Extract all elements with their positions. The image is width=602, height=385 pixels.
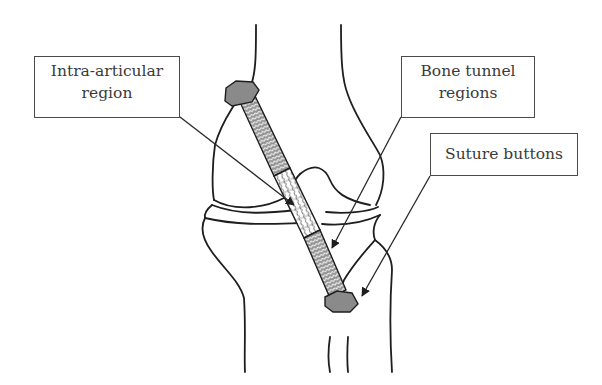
tibia-lower-line-1	[329, 337, 331, 372]
fibula-outline	[375, 240, 392, 372]
femur-right-outline	[341, 25, 383, 205]
label-tunnel-line1: Bone tunnel	[402, 60, 534, 82]
label-intra-line2: region	[35, 82, 179, 104]
femoral-condyle-lateral	[214, 198, 284, 207]
suture-button-tibial	[325, 291, 358, 312]
ligament-graft	[239, 94, 346, 298]
label-intra-line1: Intra-articular	[35, 60, 179, 82]
label-tunnel-line2: regions	[402, 82, 534, 104]
meniscus-left-edge	[205, 205, 212, 218]
femoral-condyle-medial	[300, 167, 370, 205]
label-bone-tunnel-regions: Bone tunnel regions	[401, 56, 535, 118]
leader-suture-buttons	[362, 176, 430, 296]
label-suture-line1: Suture buttons	[431, 143, 577, 165]
tibia-left-outline	[203, 218, 245, 372]
label-intra-articular-region: Intra-articular region	[34, 56, 180, 118]
graft-femoral-tunnel	[239, 94, 290, 176]
meniscus-lower	[205, 215, 380, 225]
graft-tibial-tunnel	[304, 230, 346, 298]
tibia-lower-line-2	[347, 337, 348, 372]
label-suture-buttons: Suture buttons	[430, 133, 578, 176]
leader-bone-tunnel	[332, 117, 401, 248]
